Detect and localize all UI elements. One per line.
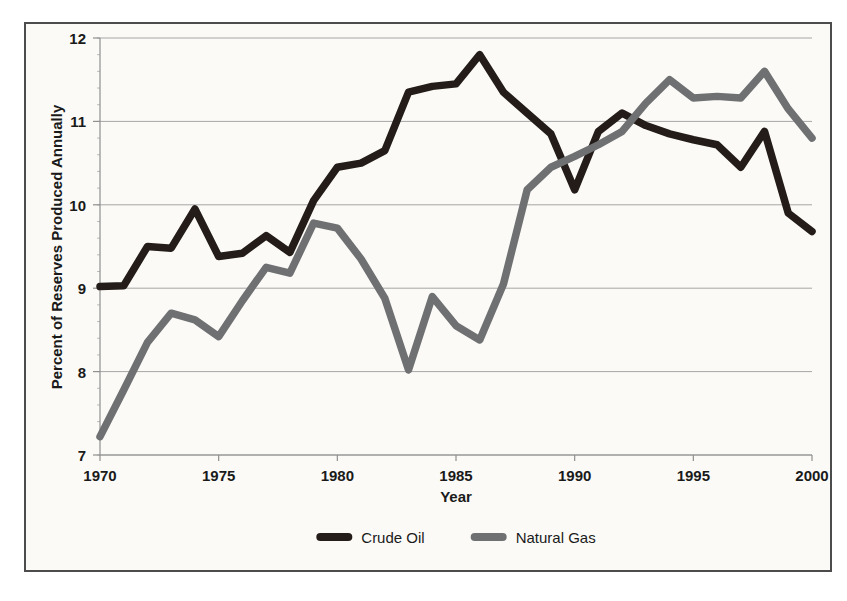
y-tick-label: 11 [70, 113, 86, 130]
legend-swatch-crude-oil [316, 533, 352, 541]
legend-label-natural-gas: Natural Gas [516, 529, 596, 546]
x-tick-label: 1985 [439, 467, 472, 484]
chart-canvas: 121110987 1970197519801985199019952000 P… [0, 0, 847, 601]
chart-legend: Crude OilNatural Gas [316, 529, 595, 546]
y-tick-label: 7 [78, 447, 86, 464]
y-tick-labels-group: 121110987 [69, 30, 86, 464]
series-line-natural-gas [100, 71, 812, 436]
x-tick-label: 1995 [677, 467, 710, 484]
y-tick-label: 8 [78, 364, 86, 381]
x-axis-title: Year [440, 488, 472, 505]
legend-swatch-natural-gas [471, 533, 507, 541]
x-tick-label: 1975 [202, 467, 235, 484]
series-line-crude-oil [100, 55, 812, 287]
x-tick-label: 2000 [795, 467, 828, 484]
x-tick-marks-group [100, 455, 812, 461]
data-series-group [100, 55, 812, 437]
x-tick-label: 1990 [558, 467, 591, 484]
y-tick-label: 12 [69, 30, 86, 47]
y-tick-marks-group [93, 38, 100, 455]
y-axis-title: Percent of Reserves Produced Annually [48, 104, 65, 389]
legend-label-crude-oil: Crude Oil [361, 529, 424, 546]
figure-root: 121110987 1970197519801985199019952000 P… [0, 0, 847, 601]
y-tick-label: 10 [69, 197, 86, 214]
x-tick-label: 1970 [83, 467, 116, 484]
x-tick-labels-group: 1970197519801985199019952000 [83, 467, 828, 484]
y-tick-label: 9 [78, 280, 86, 297]
x-tick-label: 1980 [321, 467, 354, 484]
